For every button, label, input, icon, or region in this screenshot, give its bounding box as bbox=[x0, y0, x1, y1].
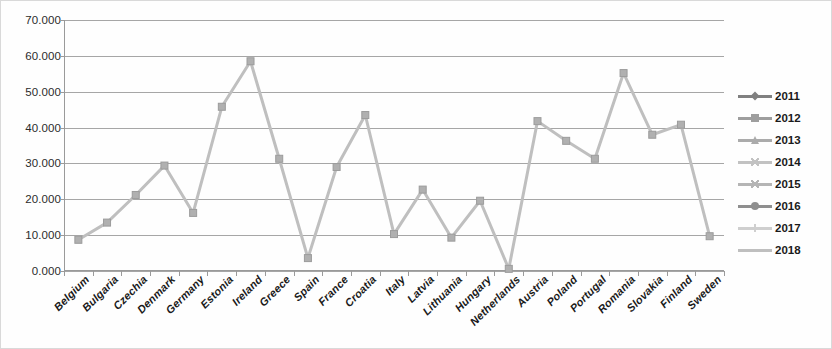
data-point-marker bbox=[218, 103, 225, 110]
y-axis-tick-label: 70.000 bbox=[3, 14, 61, 26]
legend-item-2013[interactable]: 2013 bbox=[738, 129, 830, 151]
x-axis-label: Italy bbox=[383, 273, 408, 298]
y-axis-tick-label: 40.000 bbox=[3, 122, 61, 134]
y-axis-tick-label: 60.000 bbox=[3, 50, 61, 62]
data-point-marker bbox=[161, 162, 168, 169]
y-axis: 0.00010.00020.00030.00040.00050.00060.00… bbox=[1, 20, 61, 271]
legend-item-2014[interactable]: 2014 bbox=[738, 151, 830, 173]
data-point-marker bbox=[362, 112, 369, 119]
legend-marker-circle-icon bbox=[738, 200, 772, 212]
data-point-marker bbox=[477, 197, 484, 204]
data-point-marker bbox=[534, 118, 541, 125]
legend-marker-diamond-icon bbox=[738, 90, 772, 102]
data-point-marker bbox=[419, 186, 426, 193]
legend-label: 2012 bbox=[775, 112, 801, 124]
data-point-marker bbox=[247, 58, 254, 65]
legend-label: 2016 bbox=[775, 200, 801, 212]
legend-item-2016[interactable]: 2016 bbox=[738, 195, 830, 217]
y-axis-tick-label: 30.000 bbox=[3, 157, 61, 169]
data-point-marker bbox=[75, 236, 82, 243]
data-point-marker bbox=[132, 191, 139, 198]
data-point-marker bbox=[620, 70, 627, 77]
data-point-marker bbox=[591, 155, 598, 162]
legend-marker-x-icon bbox=[738, 156, 772, 168]
data-point-marker bbox=[563, 137, 570, 144]
legend-label: 2014 bbox=[775, 156, 801, 168]
legend-label: 2017 bbox=[775, 222, 801, 234]
legend-marker-square-icon bbox=[738, 112, 772, 124]
y-axis-tick-label: 0.000 bbox=[3, 265, 61, 277]
legend-label: 2018 bbox=[775, 244, 801, 256]
data-point-marker bbox=[104, 219, 111, 226]
legend-marker-plus-icon bbox=[738, 222, 772, 234]
x-axis-tick-mark bbox=[724, 271, 725, 276]
legend-label: 2013 bbox=[775, 134, 801, 146]
x-axis-labels: BelgiumBulgariaCzechiaDenmarkGermanyEsto… bbox=[64, 273, 724, 343]
data-point-marker bbox=[677, 121, 684, 128]
y-axis-tick-label: 20.000 bbox=[3, 193, 61, 205]
legend-label: 2011 bbox=[775, 90, 800, 102]
data-point-marker bbox=[304, 255, 311, 262]
data-point-marker bbox=[448, 234, 455, 241]
data-point-marker bbox=[190, 209, 197, 216]
legend-item-2015[interactable]: 2015 bbox=[738, 173, 830, 195]
y-axis-tick-label: 10.000 bbox=[3, 229, 61, 241]
legend-item-2011[interactable]: 2011 bbox=[738, 85, 830, 107]
chart-container: 0.00010.00020.00030.00040.00050.00060.00… bbox=[0, 0, 832, 349]
legend-marker-triangle-icon bbox=[738, 134, 772, 146]
legend-label: 2015 bbox=[775, 178, 801, 190]
data-point-marker bbox=[276, 155, 283, 162]
legend-marker-star-icon bbox=[738, 178, 772, 190]
legend-item-2017[interactable]: 2017 bbox=[738, 217, 830, 239]
plot-area bbox=[64, 20, 724, 271]
chart-legend: 20112012201320142015201620172018 bbox=[738, 85, 830, 261]
data-point-marker bbox=[706, 233, 713, 240]
legend-marker-line-icon bbox=[738, 244, 772, 256]
data-point-marker bbox=[649, 131, 656, 138]
y-axis-tick-label: 50.000 bbox=[3, 86, 61, 98]
legend-item-2018[interactable]: 2018 bbox=[738, 239, 830, 261]
series-layer bbox=[64, 20, 724, 271]
legend-item-2012[interactable]: 2012 bbox=[738, 107, 830, 129]
data-point-marker bbox=[333, 164, 340, 171]
data-point-marker bbox=[391, 231, 398, 238]
